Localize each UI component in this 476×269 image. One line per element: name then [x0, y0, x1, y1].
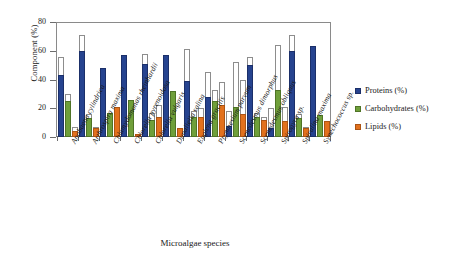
legend-item: Lipids (%): [355, 122, 473, 131]
y-axis-tick-label: 0: [12, 133, 46, 141]
legend-swatch-icon: [355, 88, 361, 94]
bar-range-extension: [142, 54, 148, 64]
y-axis-tick-label: 60: [12, 47, 46, 55]
y-axis-tick-label: 80: [12, 18, 46, 26]
bar-range-extension: [289, 35, 295, 51]
y-axis-tick-label: 40: [12, 76, 46, 84]
x-axis-title: Microalgae species: [105, 238, 285, 248]
legend-label: Proteins (%): [365, 86, 407, 95]
bar-range-extension: [65, 94, 71, 101]
legend-item: Proteins (%): [355, 86, 473, 95]
bar-range-extension: [79, 35, 85, 51]
legend-swatch-icon: [355, 124, 361, 130]
bar-range-extension: [205, 72, 211, 96]
y-axis-tick: [50, 137, 56, 138]
bar-group: [57, 22, 78, 137]
y-axis-tick-label: 20: [12, 104, 46, 112]
bar-solid-segment: [58, 75, 64, 137]
legend-swatch-icon: [355, 106, 361, 112]
chart-figure: Component (%) 806040200 Anabaena cylindr…: [0, 0, 476, 269]
bar-solid-segment: [65, 101, 71, 137]
bar: [65, 94, 71, 137]
x-axis-tick: [57, 137, 58, 141]
bar-range-extension: [58, 57, 64, 76]
bar-range-extension: [184, 49, 190, 81]
legend-item: Carbohydrates (%): [355, 104, 473, 113]
chart-legend: Proteins (%)Carbohydrates (%)Lipids (%): [355, 86, 473, 140]
legend-label: Carbohydrates (%): [365, 104, 429, 113]
bar-range-extension: [247, 57, 253, 66]
bar: [58, 57, 64, 138]
legend-label: Lipids (%): [365, 122, 401, 131]
